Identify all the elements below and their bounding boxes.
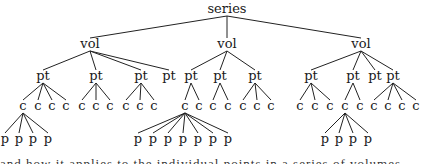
tree-node-p: p (179, 131, 187, 146)
tree-node-c: c (384, 98, 391, 113)
tree-node-p: p (209, 131, 217, 146)
tree-node-c: c (296, 98, 303, 113)
tree-node-pt: pt (346, 68, 360, 83)
tree-edge (90, 16, 227, 38)
tree-diagram: seriesvolptcppppcccptcccptcccptvolptcppp… (0, 0, 421, 164)
tree-node-c: c (150, 98, 157, 113)
tree-edge (227, 16, 361, 38)
tree-node-pt: pt (304, 68, 318, 83)
tree-node-c: c (209, 98, 216, 113)
tree-edge (23, 113, 48, 133)
tree-node-pt: pt (36, 68, 50, 83)
tree-edge (183, 113, 185, 133)
tree-node-p: p (164, 131, 172, 146)
tree-node-p: p (364, 131, 372, 146)
tree-edge (185, 113, 213, 133)
tree-node-c: c (341, 98, 348, 113)
tree-node-p: p (194, 131, 202, 146)
tree-edge (43, 51, 90, 70)
tree-node-p: p (15, 131, 23, 146)
tree-node-c: c (253, 98, 260, 113)
tree-node-c: c (122, 98, 129, 113)
tree-edge (168, 113, 185, 133)
tree-node-c: c (19, 98, 26, 113)
tree-edge (5, 113, 23, 133)
tree-node-p: p (335, 131, 343, 146)
tree-node-pt: pt (162, 68, 176, 83)
tree-node-vol: vol (79, 36, 99, 51)
tree-edge (19, 113, 23, 133)
tree-node-p: p (1, 131, 9, 146)
tree-node-vol: vol (350, 36, 370, 51)
tree-node-p: p (29, 131, 37, 146)
tree-node-c: c (48, 98, 55, 113)
tree-node-pt: pt (89, 68, 103, 83)
tree-node-p: p (149, 131, 157, 146)
tree-node-pt: pt (213, 68, 227, 83)
tree-node-c: c (78, 98, 85, 113)
tree-node-series: series (207, 1, 246, 16)
tree-node-vol: vol (216, 36, 236, 51)
tree-node-c: c (62, 98, 69, 113)
tree-node-pt: pt (368, 68, 382, 83)
tree-node-pt: pt (248, 68, 262, 83)
tree-edge (23, 113, 33, 133)
tree-edge (345, 113, 368, 133)
tree-node-c: c (136, 98, 143, 113)
clipped-text-line: and how it applies to the individual poi… (0, 154, 421, 164)
clipped-text: and how it applies to the individual poi… (0, 156, 401, 164)
tree-node-c: c (106, 98, 113, 113)
tree-node-c: c (326, 98, 333, 113)
tree-node-c: c (239, 98, 246, 113)
tree-node-c: c (370, 98, 377, 113)
tree-node-c: c (311, 98, 318, 113)
tree-node-pt: pt (134, 68, 148, 83)
tree-node-c: c (356, 98, 363, 113)
tree-node-c: c (398, 98, 405, 113)
tree-edge (153, 113, 185, 133)
tree-node-p: p (44, 131, 52, 146)
tree-node-c: c (267, 98, 274, 113)
tree-node-p: p (349, 131, 357, 146)
tree-node-c: c (412, 98, 419, 113)
tree-node-c: c (92, 98, 99, 113)
tree-node-pt: pt (386, 68, 400, 83)
tree-node-c: c (224, 98, 231, 113)
tree-node-pt: pt (184, 68, 198, 83)
tree-node-c: c (195, 98, 202, 113)
tree-node-c: c (181, 98, 188, 113)
tree-node-c: c (34, 98, 41, 113)
tree-edge (138, 113, 185, 133)
tree-node-p: p (224, 131, 232, 146)
tree-node-p: p (321, 131, 329, 146)
tree-node-p: p (134, 131, 142, 146)
